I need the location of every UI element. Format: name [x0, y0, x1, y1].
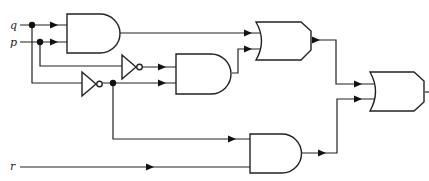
- input-label-p: p: [10, 36, 17, 49]
- inverter-bubble-icon: [137, 64, 143, 70]
- not-gate-q: [82, 72, 102, 96]
- arrow-icon: [228, 136, 236, 143]
- arrow-icon: [318, 150, 326, 157]
- inverter-triangle-icon: [122, 55, 136, 79]
- junction-not-q: [110, 80, 116, 86]
- wire-or1-to-or2: [312, 40, 376, 84]
- or-gate-2: [370, 72, 424, 111]
- arrow-icon: [244, 46, 252, 53]
- junction-p: [37, 39, 43, 45]
- and-gate-2: [176, 54, 231, 94]
- arrow-icon: [354, 81, 362, 88]
- input-label-q: q: [10, 19, 17, 32]
- junction-q: [29, 22, 35, 28]
- arrow-icon: [312, 37, 320, 44]
- arrow-icon: [158, 80, 166, 87]
- input-label-r: r: [10, 160, 16, 173]
- arrow-icon: [354, 96, 362, 103]
- and-gate-1: [67, 14, 120, 53]
- arrow-icon: [146, 164, 154, 171]
- arrow-icon: [50, 22, 58, 29]
- inverter-triangle-icon: [82, 72, 96, 96]
- and-gate-3: [250, 134, 301, 173]
- not-gate-p: [122, 55, 142, 79]
- logic-circuit-diagram: q p r: [0, 0, 429, 181]
- arrow-icon: [158, 64, 166, 71]
- arrow-icon: [50, 39, 58, 46]
- or-gate-1: [256, 22, 311, 60]
- arrow-icon: [244, 30, 252, 37]
- wire-and3-to-or2: [301, 99, 376, 153]
- wire-and2-to-or1: [232, 49, 262, 73]
- inverter-bubble-icon: [97, 81, 103, 87]
